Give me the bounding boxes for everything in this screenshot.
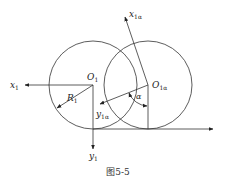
label-o1a: O1α <box>152 80 167 91</box>
x1a-axis-arrow <box>125 17 148 85</box>
diagram-canvas: O1 O1α x1 y1 x1α y1α R1 α 图5-5 <box>0 0 227 187</box>
figure-caption: 图5-5 <box>106 167 130 177</box>
label-r1: R1 <box>66 93 78 104</box>
label-x1a: x1α <box>129 9 142 20</box>
label-y1: y1 <box>88 151 98 162</box>
label-y1a: y1α <box>95 109 109 120</box>
label-x1: x1 <box>10 80 19 91</box>
label-alpha: α <box>136 92 142 101</box>
label-o1: O1 <box>87 72 98 83</box>
